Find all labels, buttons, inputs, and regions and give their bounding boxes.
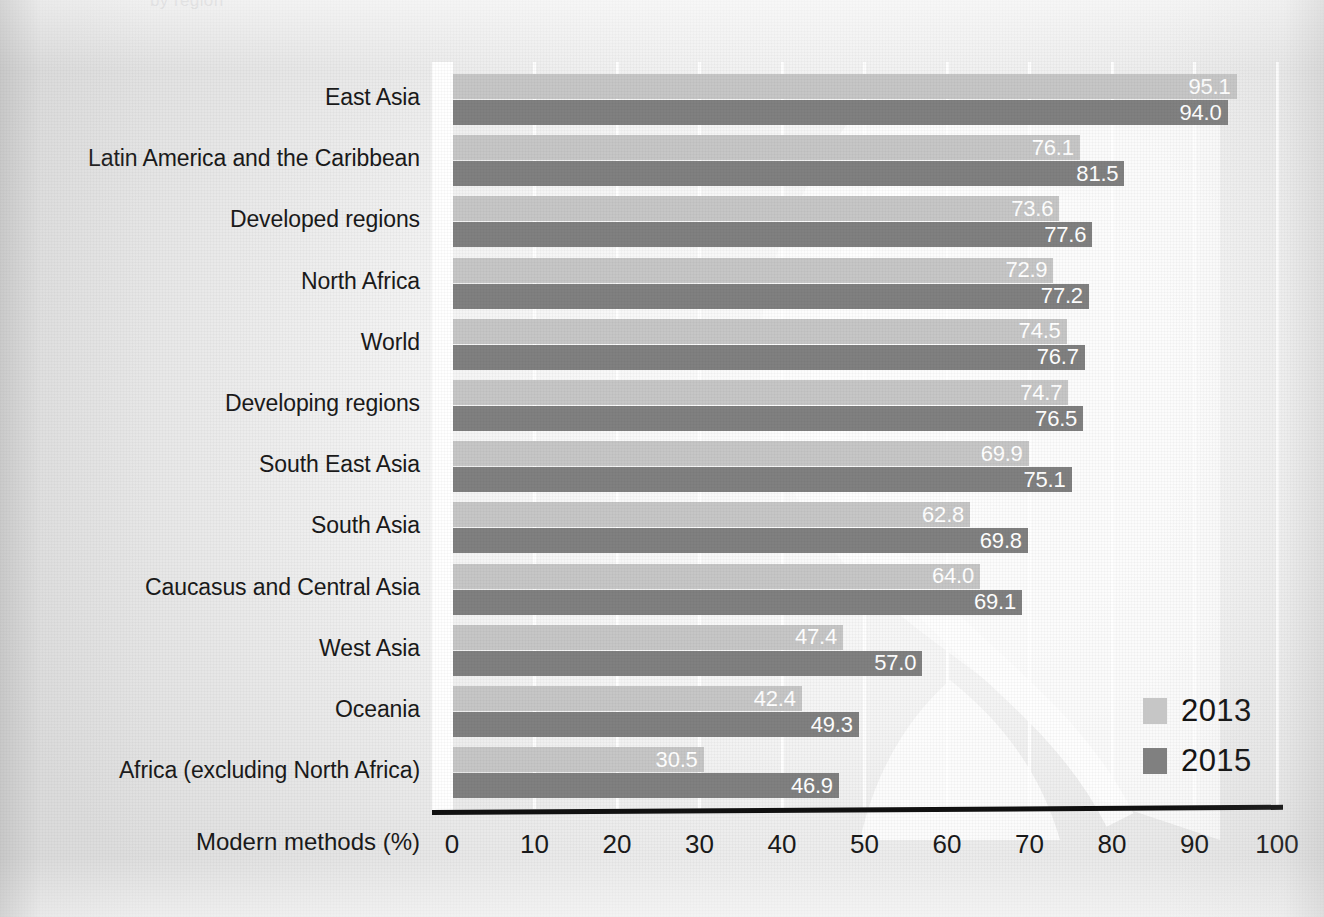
chart-page: by region 95.194.076.181.573.677.672.977… [0, 0, 1324, 917]
x-tick-label: 50 [850, 829, 879, 860]
bar-2015: 81.5 [452, 161, 1124, 186]
x-axis-title: Modern methods (%) [0, 828, 420, 856]
bar-2013: 64.0 [452, 564, 980, 589]
category-label: West Asia [0, 635, 420, 662]
bar-value-label: 47.4 [795, 626, 843, 648]
bar-value-label: 76.5 [1035, 408, 1083, 430]
category-label: North Africa [0, 268, 420, 295]
bar-value-label: 42.4 [754, 688, 802, 710]
bar-value-label: 46.9 [791, 775, 839, 797]
bar-value-label: 73.6 [1011, 198, 1059, 220]
plot-left-margin [432, 62, 453, 810]
bar-value-label: 75.1 [1024, 469, 1072, 491]
bar-2013: 42.4 [452, 686, 802, 711]
bar-value-label: 81.5 [1076, 163, 1124, 185]
bar-2013: 74.5 [452, 319, 1067, 344]
category-label: Latin America and the Caribbean [0, 145, 420, 172]
category-label: Caucasus and Central Asia [0, 574, 420, 601]
bar-group: 74.776.5 [452, 380, 1277, 432]
legend-item[interactable]: 2015 [1143, 736, 1252, 786]
legend-swatch-icon [1143, 698, 1167, 724]
bar-group: 73.677.6 [452, 196, 1277, 248]
bar-value-label: 69.8 [980, 530, 1028, 552]
bar-2015: 57.0 [452, 651, 922, 676]
category-label: South East Asia [0, 451, 420, 478]
bar-group: 76.181.5 [452, 135, 1277, 187]
bar-2015: 94.0 [452, 100, 1228, 125]
legend-swatch-icon [1143, 748, 1167, 774]
bar-value-label: 95.1 [1189, 76, 1237, 98]
bar-2013: 30.5 [452, 747, 704, 772]
bar-value-label: 64.0 [932, 565, 980, 587]
bar-2015: 69.1 [452, 590, 1022, 615]
x-axis-tick-labels: 0102030405060708090100 [452, 829, 1277, 869]
bar-value-label: 76.1 [1032, 137, 1080, 159]
bar-value-label: 30.5 [656, 749, 704, 771]
cropped-heading: by region [150, 0, 224, 11]
bar-value-label: 74.5 [1019, 320, 1067, 342]
bar-2015: 76.7 [452, 345, 1085, 370]
bar-value-label: 77.2 [1041, 285, 1089, 307]
x-tick-label: 0 [445, 829, 459, 860]
category-label: World [0, 329, 420, 356]
bar-2013: 62.8 [452, 502, 970, 527]
bar-2013: 47.4 [452, 625, 843, 650]
bar-value-label: 49.3 [811, 714, 859, 736]
x-tick-label: 10 [520, 829, 549, 860]
bar-2013: 69.9 [452, 441, 1029, 466]
bar-value-label: 69.1 [974, 591, 1022, 613]
x-tick-label: 30 [685, 829, 714, 860]
bar-group: 64.069.1 [452, 564, 1277, 616]
bar-value-label: 57.0 [874, 652, 922, 674]
bar-2015: 69.8 [452, 528, 1028, 553]
bar-group: 95.194.0 [452, 74, 1277, 126]
category-label: Africa (excluding North Africa) [0, 757, 420, 784]
bar-value-label: 94.0 [1179, 102, 1227, 124]
bar-2015: 49.3 [452, 712, 859, 737]
bar-value-label: 77.6 [1044, 224, 1092, 246]
bar-value-label: 72.9 [1005, 259, 1053, 281]
legend-label: 2015 [1181, 743, 1252, 779]
category-label: South Asia [0, 512, 420, 539]
bar-value-label: 76.7 [1037, 346, 1085, 368]
legend-label: 2013 [1181, 693, 1252, 729]
bar-value-label: 62.8 [922, 504, 970, 526]
legend-item[interactable]: 2013 [1143, 686, 1252, 736]
category-label: Developed regions [0, 206, 420, 233]
bar-2013: 72.9 [452, 258, 1053, 283]
category-label: Oceania [0, 696, 420, 723]
bar-2013: 76.1 [452, 135, 1080, 160]
bar-group: 47.457.0 [452, 625, 1277, 677]
x-tick-label: 40 [768, 829, 797, 860]
legend: 20132015 [1143, 686, 1252, 786]
category-label: Developing regions [0, 390, 420, 417]
bar-2013: 74.7 [452, 380, 1068, 405]
x-tick-label: 80 [1098, 829, 1127, 860]
bar-value-label: 74.7 [1020, 382, 1068, 404]
x-tick-label: 20 [603, 829, 632, 860]
bar-2013: 73.6 [452, 196, 1059, 221]
bar-group: 72.977.2 [452, 258, 1277, 310]
bar-2015: 75.1 [452, 467, 1072, 492]
bar-2013: 95.1 [452, 74, 1237, 99]
x-tick-label: 90 [1180, 829, 1209, 860]
category-axis-labels: East AsiaLatin America and the Caribbean… [0, 62, 420, 809]
bar-2015: 46.9 [452, 773, 839, 798]
bar-2015: 76.5 [452, 406, 1083, 431]
x-tick-label: 60 [933, 829, 962, 860]
bar-value-label: 69.9 [981, 443, 1029, 465]
bar-group: 62.869.8 [452, 502, 1277, 554]
bar-2015: 77.2 [452, 284, 1089, 309]
bar-2015: 77.6 [452, 222, 1092, 247]
x-tick-label: 70 [1015, 829, 1044, 860]
bar-group: 74.576.7 [452, 319, 1277, 371]
category-label: East Asia [0, 84, 420, 111]
bar-group: 69.975.1 [452, 441, 1277, 493]
x-tick-label: 100 [1255, 829, 1298, 860]
